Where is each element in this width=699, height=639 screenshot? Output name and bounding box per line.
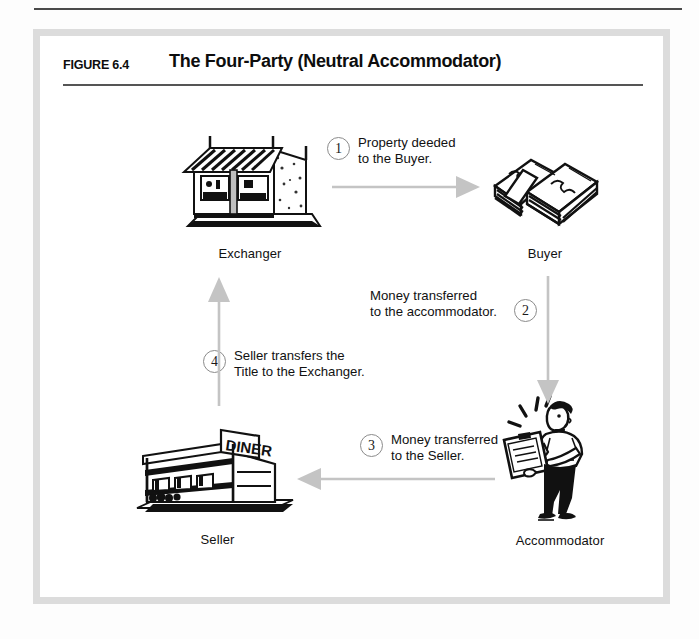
- diner-building-icon: DINER: [125, 412, 310, 528]
- node-seller[interactable]: DINER Seller: [125, 412, 310, 547]
- title-underline: [63, 84, 643, 86]
- storefront-building-icon: [170, 122, 330, 242]
- node-label-seller: Seller: [125, 532, 310, 547]
- step-text-1-line2: to the Buyer.: [358, 151, 432, 167]
- arrow-buyer-to-accommodator: [535, 276, 561, 406]
- step-text-3-line2: to the Seller.: [391, 448, 464, 464]
- step-text-4-line1: Seller transfers the: [234, 348, 345, 364]
- node-label-accommodator: Accommodator: [480, 533, 640, 548]
- step-number-3: 3: [360, 434, 383, 457]
- arrow-seller-to-exchanger: [206, 274, 232, 406]
- node-label-buyer: Buyer: [465, 246, 625, 261]
- step-number-2: 2: [514, 299, 537, 322]
- step-text-4-line2: Title to the Exchanger.: [234, 364, 365, 380]
- figure-inner: FIGURE 6.4 The Four-Party (Neutral Accom…: [40, 36, 663, 597]
- node-buyer[interactable]: Buyer: [465, 134, 625, 261]
- step-text-2-line2: to the accommodator.: [370, 304, 497, 320]
- cash-stack-icon: [465, 134, 625, 242]
- node-label-exchanger: Exchanger: [170, 246, 330, 261]
- figure-number: FIGURE 6.4: [63, 58, 129, 72]
- step-text-3-line1: Money transferred: [391, 432, 498, 448]
- step-number-1: 1: [327, 137, 350, 160]
- node-accommodator[interactable]: Accommodator: [480, 394, 640, 548]
- diagram-canvas: Exchanger: [40, 94, 663, 597]
- figure-page: FIGURE 6.4 The Four-Party (Neutral Accom…: [0, 0, 699, 639]
- figure-title: The Four-Party (Neutral Accommodator): [169, 51, 501, 72]
- arrow-accommodator-to-seller: [295, 466, 495, 492]
- arrow-exchanger-to-buyer: [332, 174, 482, 200]
- node-exchanger[interactable]: Exchanger: [170, 122, 330, 261]
- person-with-clipboard-icon: [480, 394, 640, 529]
- step-text-1-line1: Property deeded: [358, 135, 456, 151]
- step-text-2-line1: Money transferred: [370, 288, 477, 304]
- page-top-rule: [34, 8, 682, 10]
- figure-frame: FIGURE 6.4 The Four-Party (Neutral Accom…: [33, 29, 670, 604]
